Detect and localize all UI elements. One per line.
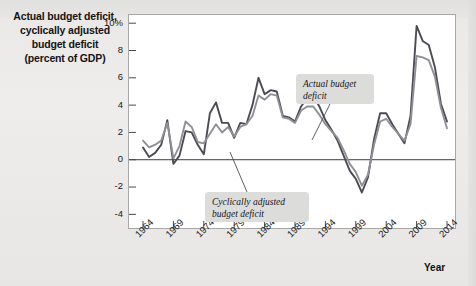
plot-area bbox=[128, 14, 456, 229]
chart-svg bbox=[129, 15, 455, 228]
page-title-line-2: cyclically adjusted bbox=[4, 24, 126, 38]
series-line bbox=[143, 56, 447, 186]
series-line bbox=[143, 26, 447, 193]
page-right-strip bbox=[468, 0, 476, 286]
page-title: Actual budget deficit, cyclically adjust… bbox=[4, 10, 126, 66]
page-title-line-1: Actual budget deficit, bbox=[4, 10, 126, 24]
x-axis-title: Year bbox=[424, 262, 445, 273]
page-title-line-4: (percent of GDP) bbox=[4, 52, 126, 66]
page-title-line-3: budget deficit bbox=[4, 38, 126, 52]
